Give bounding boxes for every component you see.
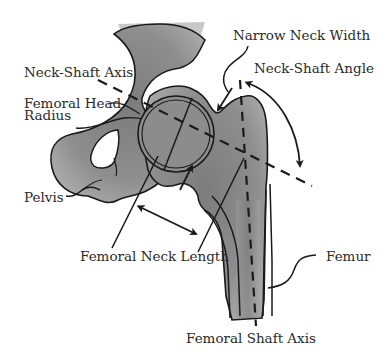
label-femoral-head-line2: Radius — [24, 108, 71, 122]
label-femoral-shaft-axis: Femoral Shaft Axis — [186, 331, 316, 345]
femur-leader — [268, 255, 316, 288]
label-neck-shaft-axis: Neck-Shaft Axis — [24, 65, 133, 79]
femoral-neck-length-arrow — [142, 208, 196, 234]
label-neck-shaft-angle: Neck-Shaft Angle — [254, 61, 374, 75]
femur-bone — [138, 86, 272, 320]
label-pelvis: Pelvis — [24, 190, 64, 204]
label-femoral-neck-length: Femoral Neck Length — [80, 249, 229, 263]
label-femur: Femur — [326, 249, 371, 263]
hip-anatomy-diagram — [0, 0, 389, 362]
narrow-neck-width-leader — [223, 46, 248, 92]
label-narrow-neck-width: Narrow Neck Width — [233, 28, 370, 42]
